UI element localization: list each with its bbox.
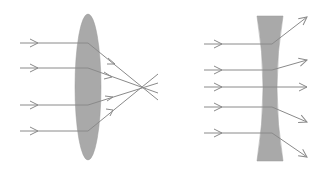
- convex-lens: [75, 14, 101, 160]
- diagram-svg: [0, 0, 325, 174]
- concave-lens: [257, 16, 283, 161]
- convex-refracted-arrow-icons: [104, 58, 115, 116]
- concave-lens-group: [204, 16, 307, 161]
- concave-incoming-arrow-icons: [214, 40, 222, 137]
- convex-lens-group: [20, 14, 158, 160]
- convex-incoming-arrow-icons: [30, 39, 38, 135]
- lens-diagram: [0, 0, 325, 174]
